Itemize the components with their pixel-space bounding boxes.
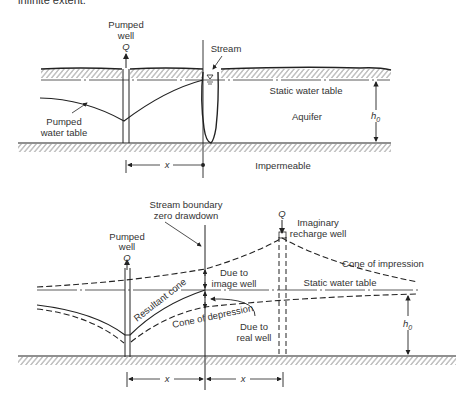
due-to-real-well-label-1: Due to (240, 321, 268, 332)
stream-channel (202, 40, 219, 178)
imaginary-recharge-well (279, 220, 286, 356)
static-water-table-label: Static water table (304, 277, 377, 288)
top-diagram: Pumped well Q Pumped water table Stream … (18, 19, 391, 178)
pumped-water-table-label-2: water table (40, 127, 87, 138)
ground-surface (41, 67, 391, 78)
pumped-water-table-label-1: Pumped (46, 116, 81, 127)
pumped-well-label-1: Pumped (108, 19, 143, 30)
cone-of-impression-label: Cone of impression (342, 258, 424, 269)
impermeable-base (18, 143, 391, 152)
bottom-diagram: Stream boundary zero drawdown Pumped wel… (18, 199, 456, 390)
distance-x-label: x (164, 159, 171, 170)
distance-x-right-label: x (240, 373, 247, 384)
distance-x-left-label: x (164, 373, 171, 384)
static-water-table-label: Static water table (270, 85, 343, 96)
due-to-image-well-label-2: image well (212, 278, 257, 289)
boundary-label-2: zero drawdown (154, 210, 218, 221)
recharge-well-label-2: recharge well (290, 228, 347, 239)
due-to-real-well-label-2: real well (237, 332, 272, 343)
real-pumped-well (125, 260, 130, 357)
impermeable-base (18, 356, 456, 365)
pumped-well-label-2: well (118, 241, 135, 252)
thickness-h0-label: h0 (371, 110, 380, 123)
stream-label: Stream (211, 43, 242, 54)
aquifer-label: Aquifer (292, 111, 322, 122)
pumped-well-label-2: well (117, 30, 134, 41)
due-to-image-well-label-1: Due to (220, 267, 248, 278)
discharge-q-label: Q (122, 41, 130, 52)
boundary-label-1: Stream boundary (150, 199, 223, 210)
pumped-well (123, 54, 129, 143)
discharge-q-label: Q (123, 252, 131, 263)
impermeable-label: Impermeable (255, 160, 310, 171)
thickness-h0-label: h0 (403, 318, 412, 331)
recharge-q-label: Q (278, 208, 286, 219)
water-level-icon (207, 75, 213, 79)
recharge-well-label-1: Imaginary (297, 217, 339, 228)
stream-boundary-image-well-diagram: Pumped well Q Pumped water table Stream … (0, 0, 472, 408)
pumped-water-table-curve (40, 80, 203, 121)
